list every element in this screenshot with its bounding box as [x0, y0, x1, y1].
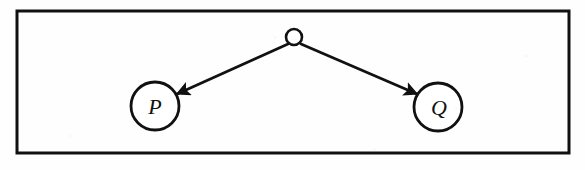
edge-root-to-q: [301, 44, 417, 94]
node-label-p: P: [147, 94, 161, 119]
root-node-circle: [286, 29, 302, 45]
node-label-q: Q: [431, 95, 447, 120]
edge-root-to-p: [177, 44, 288, 94]
tree-diagram-figure: P Q: [0, 0, 585, 170]
diagram-canvas: P Q: [0, 0, 585, 170]
